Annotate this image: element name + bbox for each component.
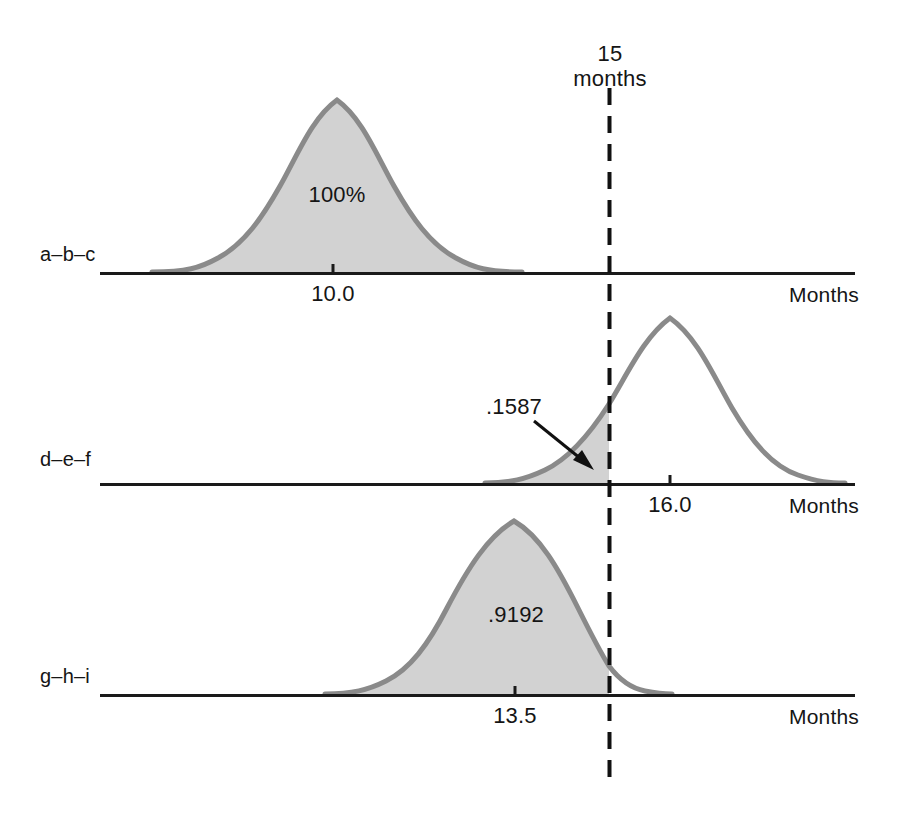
- row-label-g-h-i: g–h–i: [40, 665, 90, 688]
- curve-fill-g-h-i: [325, 521, 609, 694]
- axis-unit-g-h-i: Months: [789, 705, 859, 729]
- panel-d-e-f: [100, 318, 855, 485]
- cutoff-value: 15: [573, 42, 646, 67]
- tick-label-d-e-f-mean: 16.0: [648, 492, 692, 518]
- normal-distribution-figure: [0, 0, 897, 818]
- tick-label-a-b-c-mean: 10.0: [311, 281, 355, 307]
- panel-g-h-i: [100, 521, 855, 696]
- row-label-a-b-c: a–b–c: [40, 243, 96, 266]
- axis-unit-a-b-c: Months: [789, 283, 859, 307]
- area-label-g-h-i: .9192: [488, 602, 544, 628]
- tick-label-g-h-i-mean: 13.5: [493, 703, 537, 729]
- area-label-d-e-f: .1587: [486, 394, 542, 420]
- axis-unit-d-e-f: Months: [789, 494, 859, 518]
- row-label-d-e-f: d–e–f: [40, 448, 91, 471]
- panel-a-b-c: [100, 100, 855, 274]
- area-label-a-b-c: 100%: [308, 182, 365, 208]
- cutoff-label: 15 months: [610, 42, 683, 91]
- cutoff-unit: months: [573, 67, 646, 92]
